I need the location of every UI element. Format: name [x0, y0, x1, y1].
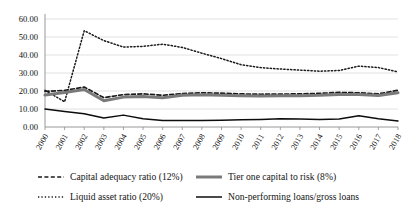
series-line [45, 109, 398, 121]
chart-legend: Capital adequacy ratio (12%) Tier one ca… [0, 166, 404, 211]
legend-label-non-performing-loans: Non-performing loans/gross loans [228, 192, 359, 202]
y-tick-label: 50.00 [19, 32, 38, 42]
legend-entry-capital-adequacy-ratio: Capital adequacy ratio (12%) [38, 172, 196, 182]
x-tick-label: 2017 [368, 133, 384, 152]
x-tick-label: 2013 [289, 133, 305, 152]
y-tick-label: 10.00 [19, 104, 38, 114]
x-tick-label: 2016 [348, 133, 364, 152]
legend-entry-liquid-asset-ratio: Liquid asset ratio (20%) [38, 192, 196, 202]
axes [45, 14, 398, 130]
x-tick-label: 2001 [54, 133, 70, 152]
x-tick-label: 2015 [328, 133, 344, 152]
x-axis-tick-labels: 2000200120022003200420052006200720082009… [34, 133, 403, 152]
x-tick-label: 2003 [93, 133, 109, 152]
thin-black-line-marker-icon [196, 192, 222, 202]
legend-entry-non-performing-loans: Non-performing loans/gross loans [196, 192, 359, 202]
x-tick-label: 2007 [172, 133, 188, 152]
x-tick-label: 2012 [270, 133, 286, 152]
line-chart-plot: 0.0010.0020.0030.0040.0050.0060.00 20002… [0, 0, 404, 166]
dotted-line-marker-icon [38, 192, 64, 202]
x-tick-label: 2005 [132, 133, 148, 152]
x-tick-label: 2010 [230, 133, 246, 152]
legend-label-tier-one-capital: Tier one capital to risk (8%) [228, 172, 336, 182]
y-tick-label: 60.00 [19, 14, 38, 24]
legend-label-liquid-asset-ratio: Liquid asset ratio (20%) [70, 192, 163, 202]
thick-gray-line-marker-icon [196, 172, 222, 182]
y-tick-label: 40.00 [19, 50, 38, 60]
x-tick-label: 2004 [113, 133, 129, 152]
x-tick-label: 2008 [191, 133, 207, 152]
y-tick-label: 20.00 [19, 86, 38, 96]
legend-entry-tier-one-capital: Tier one capital to risk (8%) [196, 172, 336, 182]
x-tick-label: 2000 [34, 133, 50, 152]
legend-row-1: Capital adequacy ratio (12%) Tier one ca… [0, 167, 404, 186]
x-tick-label: 2011 [250, 133, 266, 151]
x-tick-label: 2006 [152, 133, 168, 152]
data-series [45, 31, 398, 121]
y-tick-label: 30.00 [19, 68, 38, 78]
x-tick-label: 2014 [309, 133, 325, 152]
x-tick-label: 2018 [387, 133, 403, 152]
x-tick-label: 2002 [73, 133, 89, 152]
y-tick-label: 0.00 [23, 122, 38, 132]
chart-figure: 0.0010.0020.0030.0040.0050.0060.00 20002… [0, 0, 404, 211]
dashed-line-marker-icon [38, 172, 64, 182]
legend-label-capital-adequacy-ratio: Capital adequacy ratio (12%) [70, 172, 183, 182]
x-tick-label: 2009 [211, 133, 227, 152]
legend-row-2: Liquid asset ratio (20%) Non-performing … [0, 187, 404, 206]
y-axis-tick-labels: 0.0010.0020.0030.0040.0050.0060.00 [19, 14, 38, 132]
